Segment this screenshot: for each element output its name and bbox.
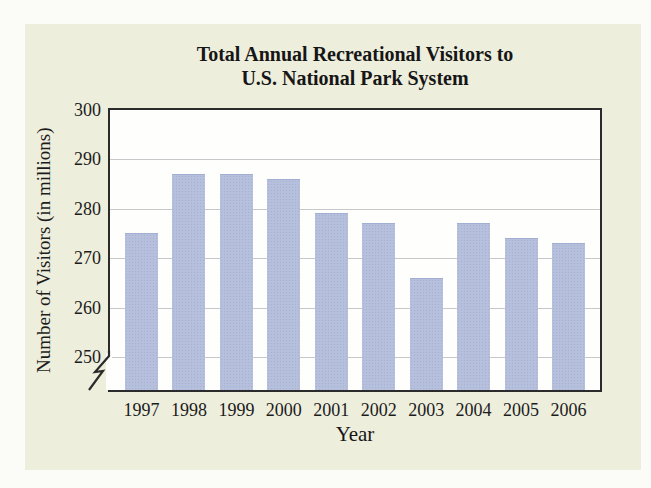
plot-area [108, 108, 602, 392]
chart-title-line2: U.S. National Park System [108, 66, 602, 90]
x-axis-title: Year [108, 422, 602, 447]
y-tick-label-300: 300 [57, 101, 101, 119]
x-tick-label-2006: 2006 [544, 400, 592, 421]
chart-title: Total Annual Recreational Visitors to U.… [108, 42, 602, 90]
y-tick-label-260: 260 [57, 299, 101, 317]
y-tick-label-280: 280 [57, 200, 101, 218]
x-tick-label-1998: 1998 [165, 400, 213, 421]
y-tick-label-270: 270 [57, 249, 101, 267]
bar-2006 [552, 243, 585, 390]
x-tick-label-1999: 1999 [212, 400, 260, 421]
bar-1998 [172, 174, 205, 390]
page: Total Annual Recreational Visitors to U.… [0, 0, 651, 488]
x-tick-label-2001: 2001 [307, 400, 355, 421]
x-tick-label-2005: 2005 [497, 400, 545, 421]
bar-2005 [505, 238, 538, 390]
bar-2004 [457, 223, 490, 390]
gridline-290 [110, 159, 600, 160]
bar-2003 [410, 278, 443, 390]
y-axis-title: Number of Visitors (in millions) [29, 108, 59, 392]
y-tick-label-290: 290 [57, 150, 101, 168]
bar-1999 [220, 174, 253, 390]
chart-title-line1: Total Annual Recreational Visitors to [108, 42, 602, 66]
bar-2001 [315, 213, 348, 390]
x-tick-label-2003: 2003 [402, 400, 450, 421]
x-tick-label-2002: 2002 [355, 400, 403, 421]
bar-2000 [267, 179, 300, 390]
x-tick-label-2004: 2004 [450, 400, 498, 421]
chart-card: Total Annual Recreational Visitors to U.… [25, 24, 641, 470]
bar-1997 [125, 233, 158, 390]
bar-2002 [362, 223, 395, 390]
x-tick-label-2000: 2000 [260, 400, 308, 421]
x-tick-label-1997: 1997 [118, 400, 166, 421]
y-axis-break-icon [83, 351, 113, 395]
